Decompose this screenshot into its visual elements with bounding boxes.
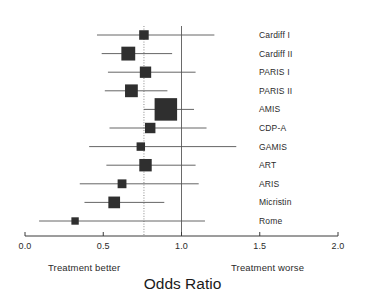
effect-size-marker <box>139 30 149 40</box>
x-tick-label-0.5: 0.5 <box>97 241 110 251</box>
study-label-rome: Rome <box>259 216 282 226</box>
effect-size-marker <box>139 159 151 171</box>
study-label-aris: ARIS <box>259 179 279 189</box>
x-tick-label-1.0: 1.0 <box>175 241 188 251</box>
study-label-amis: AMIS <box>259 104 280 114</box>
chart-title: Odds Ratio <box>0 275 365 293</box>
effect-size-marker <box>125 84 138 97</box>
effect-size-marker <box>108 197 120 209</box>
x-tick-label-0.0: 0.0 <box>19 241 32 251</box>
study-label-cdp-a: CDP-A <box>259 123 286 133</box>
effect-size-marker <box>155 98 178 121</box>
study-label-cardiff-i: Cardiff I <box>259 30 290 40</box>
study-label-paris-i: PARIS I <box>259 67 290 77</box>
effect-size-marker <box>121 47 135 61</box>
forest-plot-canvas <box>0 0 365 305</box>
effect-size-marker <box>71 217 78 224</box>
x-tick-label-1.5: 1.5 <box>253 241 266 251</box>
x-tick-label-2.0: 2.0 <box>332 241 345 251</box>
effect-size-marker <box>140 67 151 78</box>
effect-size-marker <box>145 123 155 133</box>
study-label-art: ART <box>259 160 276 170</box>
plot-background <box>0 0 365 305</box>
effect-size-marker <box>137 142 145 150</box>
treatment-better-annotation: Treatment better <box>48 262 120 273</box>
study-label-cardiff-ii: Cardiff II <box>259 49 292 59</box>
study-label-paris-ii: PARIS II <box>259 86 292 96</box>
treatment-worse-annotation: Treatment worse <box>231 262 304 273</box>
effect-size-marker <box>118 179 127 188</box>
study-label-gamis: GAMIS <box>259 142 287 152</box>
study-label-micristin: Micristin <box>259 197 292 207</box>
